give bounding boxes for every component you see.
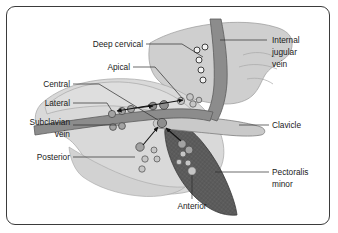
anatomy-diagram: Deep cervical Apical Central Lateral Sub… bbox=[7, 7, 330, 225]
label-posterior: Posterior bbox=[37, 152, 70, 162]
label-subclavian-vein-line2: vein bbox=[55, 129, 71, 139]
label-apical: Apical bbox=[107, 62, 130, 72]
node-group-central bbox=[157, 118, 166, 127]
label-anterior: Anterior bbox=[177, 201, 206, 211]
label-internal-jugular-line1: Internal bbox=[272, 35, 300, 45]
label-pectoralis-minor-line1: Pectoralis bbox=[272, 167, 308, 177]
label-clavicle: Clavicle bbox=[272, 120, 301, 130]
figure-frame: Deep cervical Apical Central Lateral Sub… bbox=[6, 6, 330, 225]
label-internal-jugular-line3: vein bbox=[272, 59, 288, 69]
label-subclavian-vein-line1: Subclavian bbox=[29, 117, 70, 127]
label-lateral: Lateral bbox=[45, 98, 71, 108]
label-pectoralis-minor-line2: minor bbox=[272, 179, 293, 189]
label-internal-jugular-line2: jugular bbox=[271, 47, 297, 57]
label-deep-cervical: Deep cervical bbox=[93, 39, 143, 49]
label-central: Central bbox=[43, 79, 70, 89]
